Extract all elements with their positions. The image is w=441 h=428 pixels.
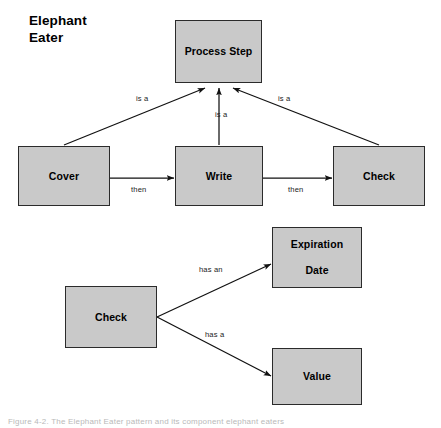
node-check-bottom[interactable]: Check: [65, 286, 157, 348]
edge-label-then-left: then: [131, 185, 146, 194]
figure-caption: Figure 4-2. The Elephant Eater pattern a…: [8, 417, 284, 426]
edge-label-is-a-right: is a: [278, 94, 290, 103]
edge-cover-isa-processstep: [64, 88, 205, 145]
figure-title-line-2: Eater: [29, 30, 87, 47]
node-cover[interactable]: Cover: [18, 146, 110, 206]
node-check-top-label: Check: [360, 170, 398, 183]
edge-label-has-a: has a: [205, 330, 224, 339]
edge-label-is-a-center: is a: [215, 110, 227, 119]
node-write[interactable]: Write: [175, 146, 263, 206]
figure-title-line-1: Elephant: [29, 13, 87, 30]
node-expiration-date-label: ExpirationDate: [285, 238, 349, 277]
node-cover-label: Cover: [46, 170, 82, 183]
figure-canvas: Elephant Eater Process Step Cover Write …: [0, 0, 441, 428]
node-check-bottom-label: Check: [92, 311, 130, 324]
edge-label-then-right: then: [288, 185, 303, 194]
figure-title: Elephant Eater: [29, 13, 87, 46]
node-value-label: Value: [300, 370, 334, 383]
node-expiration-date[interactable]: ExpirationDate: [272, 227, 362, 288]
node-process-step[interactable]: Process Step: [175, 20, 262, 83]
node-write-label: Write: [203, 170, 236, 183]
node-check-top[interactable]: Check: [333, 146, 425, 206]
edge-check-hasa-value: [157, 317, 271, 376]
edge-label-has-an: has an: [199, 265, 223, 274]
node-expiration-date-line-1: Expiration: [288, 238, 346, 251]
node-process-step-label: Process Step: [182, 45, 256, 58]
node-expiration-date-line-2: Date: [288, 264, 346, 277]
node-value[interactable]: Value: [272, 348, 362, 405]
edge-label-is-a-left: is a: [136, 94, 148, 103]
edge-check-isa-processstep: [233, 88, 379, 145]
